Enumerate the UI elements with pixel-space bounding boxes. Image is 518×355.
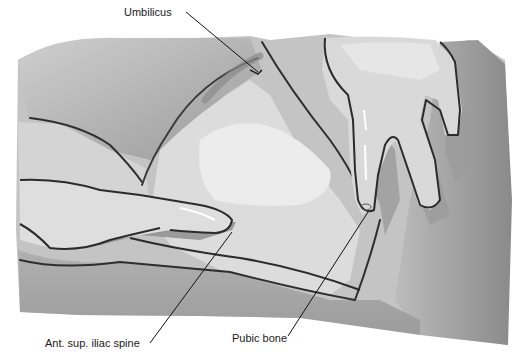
umbilicus-label: Umbilicus — [124, 6, 172, 19]
pubic-bone-label: Pubic bone — [232, 332, 287, 345]
abdominal-palpation-illustration: Umbilicus Ant. sup. iliac spine Pubic bo… — [0, 0, 518, 355]
illustration-canvas — [0, 0, 518, 355]
asis-label: Ant. sup. iliac spine — [45, 337, 140, 350]
